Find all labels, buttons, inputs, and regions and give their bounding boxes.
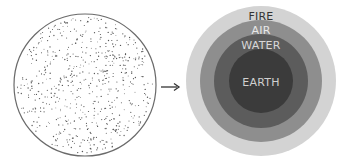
dot (60, 133, 61, 134)
dot (105, 147, 106, 148)
dot (90, 55, 91, 56)
dot (117, 40, 118, 41)
dot (92, 91, 93, 92)
dot (125, 125, 126, 126)
dot (74, 143, 75, 144)
dot (102, 69, 103, 70)
dot (52, 29, 53, 30)
dot (81, 47, 82, 48)
dot (44, 67, 45, 68)
dot (45, 96, 46, 97)
dot (105, 22, 106, 23)
dot (27, 83, 28, 84)
dot (18, 92, 19, 93)
dot (125, 68, 126, 69)
dot (33, 47, 34, 48)
dot (65, 116, 66, 117)
dot (103, 144, 104, 145)
dot (129, 57, 130, 58)
dot (67, 141, 68, 142)
dot (89, 63, 90, 64)
dot (63, 75, 64, 76)
dot (85, 52, 86, 53)
dot (70, 122, 71, 123)
dot (74, 75, 75, 76)
dot (113, 63, 114, 64)
dot (61, 35, 62, 36)
dot (82, 71, 83, 72)
dot (120, 131, 121, 132)
dot (152, 84, 153, 85)
dot (27, 54, 28, 55)
dot (109, 120, 110, 121)
dot (68, 47, 69, 48)
dot (55, 52, 56, 53)
dot (80, 110, 81, 111)
dot (69, 134, 70, 135)
dot (86, 123, 87, 124)
dot (79, 128, 80, 129)
dot (88, 111, 89, 112)
dot (46, 126, 47, 127)
dot (96, 122, 97, 123)
dot (42, 82, 43, 83)
dot (37, 127, 38, 128)
dot (74, 128, 75, 129)
dot (52, 56, 53, 57)
dot (105, 27, 106, 28)
dot (74, 66, 75, 67)
dot (46, 103, 47, 104)
dot (50, 73, 51, 74)
dot (34, 111, 35, 112)
dot (98, 56, 99, 57)
dot (41, 93, 42, 94)
dot (113, 58, 114, 59)
dot (142, 48, 143, 49)
dot (106, 123, 107, 124)
dot (82, 112, 83, 113)
dot (51, 108, 52, 109)
dot (26, 79, 27, 80)
dot (82, 139, 83, 140)
dot (148, 103, 149, 104)
dot (78, 88, 79, 89)
dot (74, 29, 75, 30)
dot (51, 93, 52, 94)
dot (21, 108, 22, 109)
dot (43, 107, 44, 108)
dot (43, 111, 44, 112)
dot (103, 71, 104, 72)
dot (76, 97, 77, 98)
dot (131, 83, 132, 84)
dot (63, 146, 64, 147)
dot (38, 91, 39, 92)
dot (129, 86, 130, 87)
dot (67, 123, 68, 124)
dot (70, 75, 71, 76)
dot (45, 69, 46, 70)
dot (108, 101, 109, 102)
dot (34, 94, 35, 95)
dot (24, 85, 25, 86)
dot (80, 35, 81, 36)
dot (131, 73, 132, 74)
dot (87, 22, 88, 23)
dot (94, 118, 95, 119)
dot (70, 56, 71, 57)
dot (115, 44, 116, 45)
dot (28, 94, 29, 95)
dot (47, 50, 48, 51)
dot (107, 56, 108, 57)
dot (22, 77, 23, 78)
dot (67, 53, 68, 54)
dot (59, 80, 60, 81)
dot (35, 107, 36, 108)
dotted-circle (14, 14, 156, 156)
dot (142, 64, 143, 65)
dot (47, 96, 48, 97)
dot (67, 26, 68, 27)
dot (111, 102, 112, 103)
dot (50, 62, 51, 63)
dot (99, 70, 100, 71)
dot (135, 58, 136, 59)
